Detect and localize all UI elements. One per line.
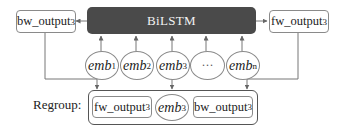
fw-output-label: fw_output [271, 14, 322, 29]
regroup-emb-sub: 3 [181, 103, 186, 113]
embedding-sub: 2 [146, 61, 151, 71]
regroup-label: Regroup: [33, 97, 81, 113]
regroup-bw-sub: 3 [247, 102, 252, 112]
embedding-sub: 3 [182, 61, 187, 71]
regroup-fw-output-box: fw_output3 [92, 96, 152, 118]
regroup-emb-node: emb3 [155, 94, 189, 121]
embedding-label: emb [229, 58, 252, 74]
embedding-node-n: embn [226, 51, 260, 80]
bilstm-block: BiLSTM [87, 7, 256, 34]
fw-output-sub: 3 [322, 17, 327, 27]
embedding-label: emb [123, 58, 146, 74]
bw-output-box: bw_output3 [16, 10, 76, 33]
regroup-emb-label: emb [158, 100, 181, 116]
regroup-fw-sub: 3 [145, 102, 150, 112]
bw-output-label: bw_output [17, 14, 70, 29]
ellipsis-label: ··· [202, 58, 214, 73]
embedding-node-2: emb2 [120, 51, 154, 80]
embedding-node-3: emb3 [156, 51, 190, 80]
bw-output-sub: 3 [70, 17, 75, 27]
embedding-label: emb [88, 58, 111, 74]
embedding-sub: n [252, 61, 257, 71]
regroup-bw-label: bw_output [194, 100, 247, 115]
embedding-node-1: emb1 [85, 51, 119, 80]
embedding-sub: 1 [111, 61, 116, 71]
embedding-node-ellipsis: ··· [190, 51, 225, 80]
fw-output-box: fw_output3 [269, 10, 329, 33]
regroup-bw-output-box: bw_output3 [193, 96, 253, 118]
regroup-fw-label: fw_output [94, 100, 145, 115]
embedding-label: emb [159, 58, 182, 74]
bilstm-label: BiLSTM [147, 13, 196, 29]
